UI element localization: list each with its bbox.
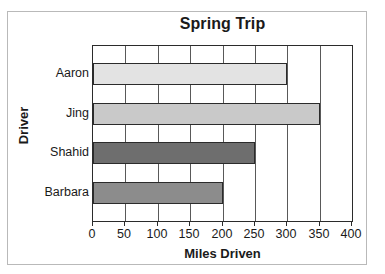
bar-row	[93, 63, 352, 85]
bar-barbara	[93, 182, 223, 204]
x-axis-title: Miles Driven	[92, 246, 353, 261]
x-tick-label-400: 400	[331, 227, 371, 241]
x-tick-mark	[157, 222, 158, 226]
chart-figure: Spring Trip Driver AaronJingShahidBarbar…	[0, 0, 385, 274]
x-tick-mark	[189, 222, 190, 226]
y-tick-label-barbara: Barbara	[3, 185, 89, 199]
x-tick-mark	[222, 222, 223, 226]
bar-aaron	[93, 63, 287, 85]
x-tick-mark	[92, 222, 93, 226]
bar-row	[93, 182, 352, 204]
y-tick-label-jing: Jing	[3, 106, 89, 120]
x-tick-mark	[351, 222, 352, 226]
bar-jing	[93, 103, 320, 125]
bar-shahid	[93, 142, 255, 164]
bar-row	[93, 103, 352, 125]
plot-area	[92, 45, 353, 222]
x-axis-ticks: 050100150200250300350400	[92, 222, 353, 244]
y-axis-tick-labels: AaronJingShahidBarbara	[0, 45, 89, 222]
x-tick-mark	[124, 222, 125, 226]
y-tick-label-aaron: Aaron	[3, 66, 89, 80]
x-tick-mark	[254, 222, 255, 226]
chart-title: Spring Trip	[92, 14, 353, 34]
x-tick-mark	[286, 222, 287, 226]
y-tick-label-shahid: Shahid	[3, 145, 89, 159]
x-tick-mark	[319, 222, 320, 226]
bar-row	[93, 142, 352, 164]
